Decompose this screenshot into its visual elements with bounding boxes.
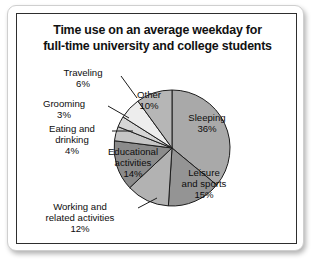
pie-label-line: Working and [53,201,107,212]
pie-label-line: related activities [46,212,115,223]
pie-label-line: Eating and [49,123,95,134]
pie-label-line: 4% [65,145,79,156]
pie-label-line: Grooming [43,98,85,109]
leader-line-grooming [108,106,129,118]
pie-label-line: 3% [57,109,71,120]
chart-card: Time use on an average weekday for full-… [7,5,304,251]
pie-chart: Sleeping36%Leisureand sports15%Working a… [17,14,297,244]
pie-label-line: 6% [76,78,90,89]
pie-label-line: Sleeping [188,112,225,123]
pie-label-line: 12% [70,223,90,234]
pie-label-eating-and-drinking: Eating anddrinking4% [49,123,95,156]
pie-label-line: Educational [108,146,158,157]
pie-label-other: Other10% [137,89,162,111]
pie-label-line: 10% [139,100,159,111]
pie-label-line: drinking [55,134,89,145]
pie-label-line: Traveling [63,67,102,78]
pie-label-line: Other [137,89,162,100]
leader-line-traveling [121,76,137,98]
pie-label-line: 36% [197,123,217,134]
pie-label-working-and-related-activities: Working andrelated activities12% [46,201,115,234]
pie-label-line: 15% [194,189,214,200]
pie-label-line: and sports [182,178,227,189]
chart-inner-frame: Time use on an average weekday for full-… [16,13,297,244]
pie-label-line: 14% [123,168,143,179]
pie-label-line: activities [115,157,152,168]
pie-label-grooming: Grooming3% [43,98,85,120]
pie-label-line: Leisure [188,167,219,178]
pie-label-traveling: Traveling6% [63,67,102,89]
